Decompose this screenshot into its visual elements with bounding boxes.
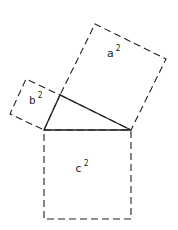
square-a	[60, 24, 166, 130]
label-a-squared: a2	[107, 44, 121, 60]
exponent: 2	[116, 44, 121, 53]
exponent: 2	[38, 91, 43, 100]
square-c	[44, 130, 131, 219]
label-b-squared: b2	[29, 91, 43, 107]
label-c-squared: c2	[75, 159, 89, 175]
pythagorean-diagram: a2b2c2	[0, 0, 178, 230]
right-triangle	[44, 95, 131, 130]
exponent: 2	[84, 159, 89, 168]
